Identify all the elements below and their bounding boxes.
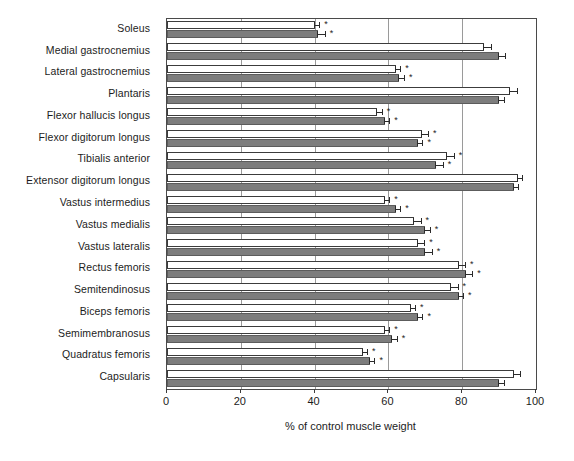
error-bar-cap [520, 371, 521, 377]
bar [167, 21, 315, 29]
error-bar [446, 156, 453, 157]
error-bar-cap [504, 97, 505, 103]
significance-marker: * [420, 303, 424, 312]
bar [167, 348, 363, 356]
bar [167, 65, 396, 73]
bar [167, 52, 499, 60]
bar [167, 87, 510, 95]
error-bar-cap [400, 66, 401, 72]
x-tick-label: 20 [234, 395, 246, 407]
x-tick-mark [535, 389, 536, 393]
error-bar-cap [317, 31, 318, 37]
bar [167, 326, 385, 334]
error-bar-cap [382, 109, 383, 115]
error-bar-cap [417, 240, 418, 246]
error-bar-cap [395, 206, 396, 212]
category-label: Lateral gastrocnemius [45, 66, 150, 77]
bar [167, 261, 459, 269]
error-bar-cap [454, 153, 455, 159]
error-bar-cap [389, 197, 390, 203]
significance-marker: * [324, 20, 328, 29]
error-bar-cap [421, 218, 422, 224]
significance-marker: * [405, 204, 409, 213]
significance-marker: * [409, 73, 413, 82]
error-bar-cap [498, 97, 499, 103]
error-bar-cap [397, 336, 398, 342]
category-label: Tibialis anterior [77, 153, 150, 164]
significance-marker: * [427, 312, 431, 321]
bar [167, 174, 518, 182]
bar [167, 183, 514, 191]
category-label: Biceps femoris [80, 306, 150, 317]
error-bar-cap [424, 240, 425, 246]
error-bar-cap [458, 284, 459, 290]
error-bar-cap [422, 140, 423, 146]
error-bar-cap [384, 327, 385, 333]
error-bar [450, 287, 457, 288]
bar [167, 108, 377, 116]
error-bar [421, 134, 428, 135]
significance-marker: * [427, 138, 431, 147]
category-label: Quadratus femoris [62, 349, 150, 360]
category-label: Vastus lateralis [78, 241, 150, 252]
error-bar-cap [443, 162, 444, 168]
x-tick-mark [314, 389, 315, 393]
category-label: Flexor digitorum longus [39, 132, 150, 143]
error-bar-cap [517, 175, 518, 181]
category-label: Extensor digitorum longus [26, 175, 150, 186]
significance-marker: * [437, 247, 441, 256]
error-bar-cap [389, 327, 390, 333]
error-bar [465, 274, 472, 275]
error-bar-cap [513, 184, 514, 190]
error-bar-cap [374, 358, 375, 364]
bar [167, 248, 425, 256]
error-bar-cap [458, 293, 459, 299]
x-tick-mark [387, 389, 388, 393]
chart-figure: SoleusMedial gastrocnemiusLateral gastro… [0, 0, 574, 461]
error-bar [424, 252, 431, 253]
bar [167, 96, 499, 104]
error-bar-cap [465, 262, 466, 268]
category-label: Rectus femoris [79, 262, 150, 273]
category-label: Semitendinosus [74, 284, 150, 295]
bar [167, 117, 385, 125]
error-bar [317, 34, 324, 35]
plot-inner: ************************** [167, 19, 536, 389]
error-bar-cap [325, 31, 326, 37]
error-bar-cap [505, 53, 506, 59]
bar [167, 379, 499, 387]
x-tick-label: 40 [307, 395, 319, 407]
error-bar-cap [391, 336, 392, 342]
error-bar-cap [424, 227, 425, 233]
error-bar [498, 56, 505, 57]
category-label: Soleus [117, 23, 150, 34]
bar [167, 130, 422, 138]
significance-marker: * [394, 116, 398, 125]
bar [167, 30, 318, 38]
plot-area: ************************** [166, 18, 537, 390]
error-bar [509, 91, 516, 92]
bar [167, 357, 370, 365]
x-tick-mark [166, 389, 167, 393]
error-bar [413, 221, 420, 222]
bar [167, 370, 514, 378]
error-bar [435, 165, 442, 166]
error-bar-cap [398, 75, 399, 81]
bar [167, 74, 399, 82]
error-bar-cap [513, 371, 514, 377]
error-bar-cap [483, 44, 484, 50]
significance-marker: * [372, 347, 376, 356]
error-bar-cap [491, 44, 492, 50]
error-bar-cap [504, 380, 505, 386]
significance-marker: * [470, 260, 474, 269]
bar [167, 196, 385, 204]
category-label-column: SoleusMedial gastrocnemiusLateral gastro… [0, 18, 160, 388]
error-bar [417, 243, 424, 244]
significance-marker: * [394, 325, 398, 334]
x-tick-mark [461, 389, 462, 393]
bar [167, 161, 436, 169]
significance-marker: * [459, 151, 463, 160]
significance-marker: * [435, 225, 439, 234]
error-bar-cap [522, 175, 523, 181]
x-tick-label: 0 [163, 395, 169, 407]
